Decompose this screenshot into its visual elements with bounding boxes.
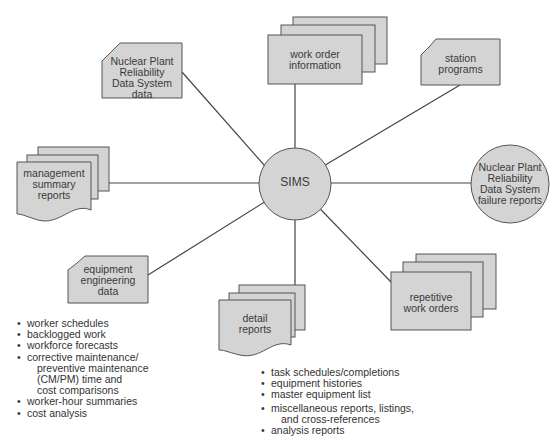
nprds-failure-line-4: failure reports xyxy=(466,195,554,206)
station-programs-line-2: programs xyxy=(421,64,500,75)
node-repetitive-work-orders: repetitive work orders xyxy=(391,292,471,314)
management-line-3: reports xyxy=(17,190,91,201)
node-nprds-failure-reports: Nuclear Plant Reliability Data System fa… xyxy=(466,162,554,206)
repetitive-line-2: work orders xyxy=(391,303,471,314)
sims-hub-label: SIMS xyxy=(280,175,309,189)
list-item: analysis reports xyxy=(261,425,431,436)
sims-hub: SIMS xyxy=(265,177,325,188)
detail-report-contents-list: task schedules/completions equipment his… xyxy=(261,367,431,436)
list-item: corrective maintenance/ preventive maint… xyxy=(17,352,167,397)
nprds-data-line-4: data xyxy=(102,89,182,100)
work-order-line-2: information xyxy=(268,60,362,71)
equipment-line-3: data xyxy=(68,286,148,297)
node-station-programs: station programs xyxy=(421,53,500,75)
node-equipment-engineering-data: equipment engineering data xyxy=(68,264,148,297)
list-item: miscellaneous reports, listings, and cro… xyxy=(261,403,431,425)
management-report-contents-list: worker schedules backlogged work workfor… xyxy=(17,318,167,419)
detail-reports-line-2: reports xyxy=(219,324,291,335)
node-management-summary-reports: management summary reports xyxy=(17,168,91,201)
node-work-order-information: work order information xyxy=(268,49,362,71)
list-item: cost analysis xyxy=(17,408,167,419)
node-detail-reports: detail reports xyxy=(219,313,291,335)
list-item: master equipment list xyxy=(261,389,431,400)
node-nprds-data: Nuclear Plant Reliability Data System da… xyxy=(102,56,182,100)
